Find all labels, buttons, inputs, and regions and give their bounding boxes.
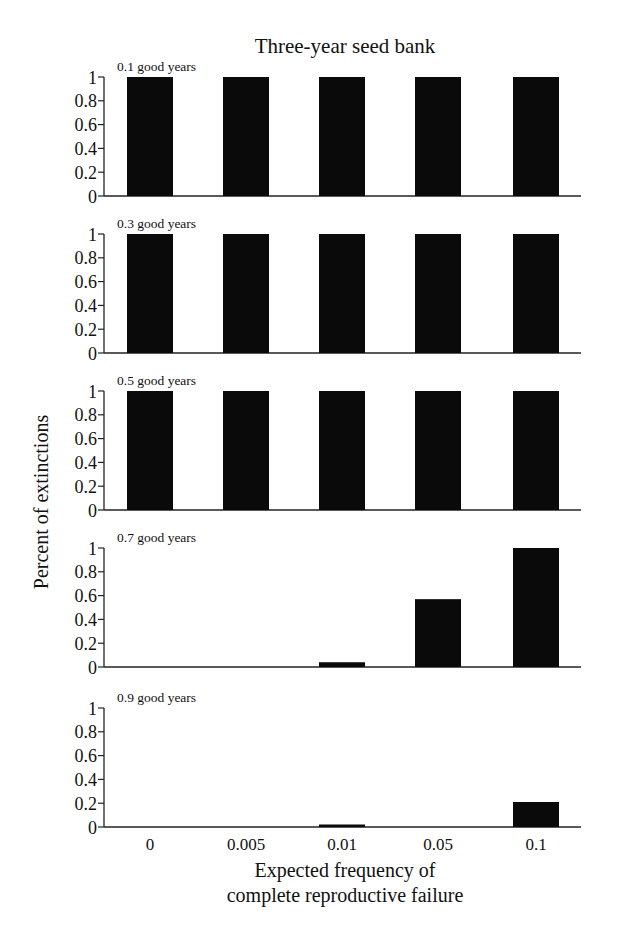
y-tick-label: 0 xyxy=(88,818,97,838)
y-tick-label: 0.4 xyxy=(75,610,98,630)
panel-3: 0.5 good years00.20.40.60.81 xyxy=(75,373,582,521)
y-tick-label: 0 xyxy=(88,658,97,678)
y-tick-label: 0.6 xyxy=(75,586,98,606)
panel-4: 0.7 good years00.20.40.60.81 xyxy=(75,530,582,678)
y-tick-label: 0.6 xyxy=(75,746,98,766)
panel-5: 0.9 good years00.20.40.60.81 xyxy=(75,690,582,838)
y-tick-label: 1 xyxy=(88,382,97,402)
y-tick-label: 0 xyxy=(88,501,97,521)
y-tick-label: 0.4 xyxy=(75,770,98,790)
bar-0.005 xyxy=(223,234,269,353)
panel-label: 0.9 good years xyxy=(117,690,196,705)
bar-0 xyxy=(127,391,173,510)
bar-0.01 xyxy=(319,825,365,828)
y-tick-label: 1 xyxy=(88,225,97,245)
panel-label: 0.1 good years xyxy=(117,59,196,74)
y-tick-label: 0.8 xyxy=(75,562,98,582)
y-tick-label: 0 xyxy=(88,187,97,207)
bar-0 xyxy=(127,234,173,353)
bar-0.1 xyxy=(513,234,559,353)
bar-0.01 xyxy=(319,234,365,353)
y-tick-label: 0.2 xyxy=(75,634,98,654)
bar-0.05 xyxy=(415,599,461,667)
bar-0.005 xyxy=(223,77,269,196)
bar-0.005 xyxy=(223,391,269,510)
y-tick-label: 1 xyxy=(88,699,97,719)
x-tick-label: 0.05 xyxy=(423,835,453,854)
y-tick-label: 1 xyxy=(88,68,97,88)
bar-0.1 xyxy=(513,391,559,510)
x-tick-label: 0.01 xyxy=(327,835,357,854)
bar-0.05 xyxy=(415,77,461,196)
panel-label: 0.7 good years xyxy=(117,530,196,545)
bar-0.05 xyxy=(415,391,461,510)
x-axis-title-line-1: Expected frequency of xyxy=(254,859,435,882)
bar-0.1 xyxy=(513,802,559,827)
bar-0.01 xyxy=(319,391,365,510)
y-tick-label: 0.2 xyxy=(75,477,98,497)
y-tick-label: 0.4 xyxy=(75,453,98,473)
bar-0.01 xyxy=(319,77,365,196)
y-tick-label: 0.2 xyxy=(75,163,98,183)
y-tick-label: 0.2 xyxy=(75,320,98,340)
bar-0 xyxy=(127,77,173,196)
y-tick-label: 0.8 xyxy=(75,722,98,742)
panels: 0.1 good years00.20.40.60.810.3 good yea… xyxy=(75,59,582,838)
y-tick-label: 1 xyxy=(88,539,97,559)
y-tick-label: 0.6 xyxy=(75,115,98,135)
y-tick-label: 0.8 xyxy=(75,248,98,268)
panel-1: 0.1 good years00.20.40.60.81 xyxy=(75,59,582,207)
y-tick-label: 0.4 xyxy=(75,139,98,159)
x-tick-label: 0.1 xyxy=(525,835,546,854)
panel-2: 0.3 good years00.20.40.60.81 xyxy=(75,216,582,364)
panel-label: 0.5 good years xyxy=(117,373,196,388)
bar-0.1 xyxy=(513,77,559,196)
y-tick-label: 0.6 xyxy=(75,429,98,449)
x-tick-label: 0.005 xyxy=(227,835,265,854)
y-tick-label: 0.6 xyxy=(75,272,98,292)
bar-0.05 xyxy=(415,234,461,353)
y-tick-label: 0.4 xyxy=(75,296,98,316)
y-axis-title: Percent of extinctions xyxy=(30,415,52,590)
bar-0.01 xyxy=(319,662,365,667)
panel-label: 0.3 good years xyxy=(117,216,196,231)
y-tick-label: 0.2 xyxy=(75,794,98,814)
chart-title: Three-year seed bank xyxy=(255,34,436,58)
y-tick-label: 0.8 xyxy=(75,405,98,425)
chart: Three-year seed bank 0.1 good years00.20… xyxy=(0,0,617,934)
bar-0.1 xyxy=(513,548,559,667)
x-tick-label: 0 xyxy=(146,835,155,854)
y-tick-label: 0 xyxy=(88,344,97,364)
x-tick-labels: 00.0050.010.050.1 xyxy=(146,835,547,854)
x-axis-title-line-2: complete reproductive failure xyxy=(227,884,464,907)
y-tick-label: 0.8 xyxy=(75,91,98,111)
